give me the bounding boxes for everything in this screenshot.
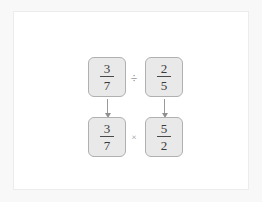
fraction-diagram: 3 7 ÷ 2 5 3 7 <box>0 0 262 202</box>
multiplication-sign: × <box>127 133 141 142</box>
fraction-box-top-left: 3 7 <box>88 57 126 97</box>
denominator: 5 <box>156 77 172 92</box>
denominator: 7 <box>99 77 115 92</box>
fraction-top-left: 3 7 <box>99 62 115 92</box>
fraction-bottom-left: 3 7 <box>99 122 115 152</box>
numerator: 5 <box>156 122 172 136</box>
screenshot-canvas: 3 7 ÷ 2 5 3 7 <box>0 0 262 202</box>
arrow-left-column <box>103 99 112 119</box>
fraction-box-top-right: 2 5 <box>145 57 183 97</box>
arrow-shaft <box>107 99 108 114</box>
arrow-right-column <box>160 99 169 119</box>
fraction-bottom-right: 5 2 <box>156 122 172 152</box>
denominator: 7 <box>99 137 115 152</box>
division-sign: ÷ <box>127 72 141 84</box>
numerator: 3 <box>99 62 115 76</box>
fraction-top-right: 2 5 <box>156 62 172 92</box>
fraction-box-bottom-left: 3 7 <box>88 117 126 157</box>
denominator: 2 <box>156 137 172 152</box>
fraction-box-bottom-right: 5 2 <box>145 117 183 157</box>
numerator: 2 <box>156 62 172 76</box>
arrow-shaft <box>164 99 165 114</box>
numerator: 3 <box>99 122 115 136</box>
